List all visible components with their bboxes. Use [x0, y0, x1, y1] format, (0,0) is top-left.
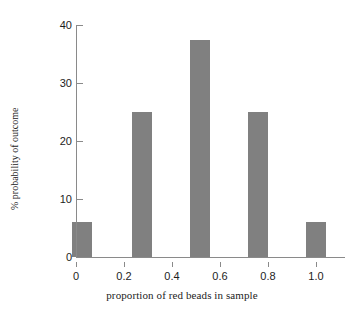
y-tick-0	[77, 257, 83, 258]
x-tick-0.4	[172, 262, 173, 267]
y-tick-label-40: 40	[60, 20, 72, 31]
x-tick-label-0.2: 0.2	[116, 270, 131, 282]
y-tick-label-20: 20	[60, 136, 72, 147]
bar-0	[72, 222, 92, 257]
bar-1	[132, 112, 152, 257]
x-tick-label-0.8: 0.8	[260, 270, 275, 282]
y-axis-title: % probability of outcome	[8, 196, 138, 210]
x-tick-0.6	[220, 262, 221, 267]
x-axis-line	[76, 257, 345, 258]
x-tick-1.0	[316, 262, 317, 267]
y-tick-label-0: 0	[66, 252, 72, 263]
x-axis-title: proportion of red beads in sample	[0, 289, 364, 301]
x-tick-label-1.0: 1.0	[308, 270, 323, 282]
histogram-chart: 0 10 20 30 40 0 0.2 0.4 0.6 0.8 1.0 prop…	[0, 0, 364, 316]
x-tick-label-0.6: 0.6	[212, 270, 227, 282]
y-tick-40	[77, 25, 83, 26]
x-tick-label-0.4: 0.4	[164, 270, 179, 282]
bar-3	[248, 112, 268, 257]
x-tick-0.8	[268, 262, 269, 267]
x-tick-0.2	[124, 262, 125, 267]
bar-4	[306, 222, 326, 257]
x-tick-0.0	[76, 262, 77, 267]
y-tick-30	[77, 83, 83, 84]
y-tick-label-30: 30	[60, 78, 72, 89]
x-tick-label-0.0: 0	[73, 270, 79, 282]
y-tick-20	[77, 141, 83, 142]
bar-2	[190, 40, 210, 258]
